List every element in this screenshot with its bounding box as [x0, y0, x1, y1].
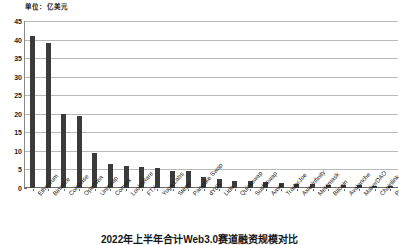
bar [30, 36, 35, 188]
y-tick-label: 35 [2, 55, 22, 62]
x-tick-mark [390, 189, 391, 191]
x-tick-mark [95, 189, 96, 191]
x-tick-mark [33, 189, 34, 191]
x-tick-mark [110, 189, 111, 191]
x-tick-mark [157, 189, 158, 191]
y-tick-label: 30 [2, 73, 22, 80]
y-tick-label: 5 [2, 166, 22, 173]
y-tick-label: 0 [2, 185, 22, 192]
x-tick-mark [48, 189, 49, 191]
x-tick-mark [204, 189, 205, 191]
x-axis-labels: EthereumBinanceCoinbaseOpenseaUniswapCon… [25, 189, 398, 239]
x-tick-mark [266, 189, 267, 191]
y-tick-label: 20 [2, 110, 22, 117]
chart-figure: 单位：亿美元 051015202530354045 EthereumBinanc… [0, 0, 399, 245]
x-tick-mark [142, 189, 143, 191]
figure-caption: 2022年上半年合计Web3.0赛道融资规模对比 [0, 233, 399, 245]
x-tick-mark [328, 189, 329, 191]
y-tick-label: 45 [2, 18, 22, 25]
x-tick-mark [250, 189, 251, 191]
x-tick-mark [235, 189, 236, 191]
x-tick-mark [188, 189, 189, 191]
x-tick-mark [359, 189, 360, 191]
x-tick-mark [313, 189, 314, 191]
x-tick-mark [344, 189, 345, 191]
x-tick-mark [79, 189, 80, 191]
x-tick-mark [281, 189, 282, 191]
bars-layer [25, 21, 398, 188]
unit-annotation: 单位：亿美元 [25, 1, 68, 11]
x-tick-mark [126, 189, 127, 191]
x-tick-mark [297, 189, 298, 191]
y-tick-label: 15 [2, 129, 22, 136]
bar [46, 43, 51, 188]
y-tick-label: 40 [2, 36, 22, 43]
y-tick-label: 25 [2, 92, 22, 99]
y-tick-label: 10 [2, 147, 22, 154]
y-axis: 051015202530354045 [0, 21, 22, 188]
x-tick-mark [219, 189, 220, 191]
x-tick-mark [64, 189, 65, 191]
x-tick-mark [173, 189, 174, 191]
x-tick-mark [375, 189, 376, 191]
